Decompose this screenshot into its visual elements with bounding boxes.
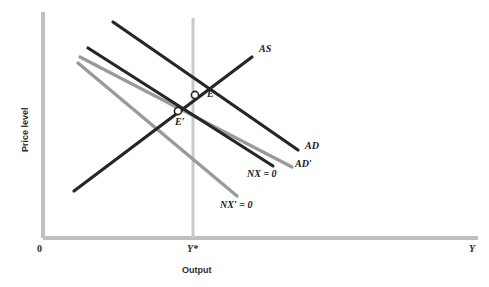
point-label-e: E — [207, 89, 214, 99]
curve-label-ad: AD — [305, 141, 319, 151]
curve-label-as: AS — [259, 44, 271, 54]
curve-label-nx-prime-zero: NX′ = 0 — [220, 200, 252, 210]
curve-as — [74, 57, 252, 191]
plot-canvas — [0, 0, 489, 287]
x-axis-end-label: Y — [469, 244, 475, 254]
y-axis-title: Price level — [21, 107, 30, 152]
origin-label: 0 — [37, 244, 42, 254]
x-tick-label-y-star: Y* — [187, 244, 198, 254]
equilibrium-point-e — [191, 91, 198, 98]
point-label-e-prime: E′ — [175, 117, 184, 127]
x-axis-title: Output — [182, 266, 212, 275]
ad-as-diagram-figure: AS AD NX = 0 AD′ NX′ = 0 E E′ 0 Y* Y Pri… — [0, 0, 489, 287]
equilibrium-point-e-prime — [174, 107, 181, 114]
curve-label-nx-zero: NX = 0 — [247, 169, 277, 179]
curve-ad — [113, 22, 298, 150]
curve-label-ad-prime: AD′ — [295, 159, 312, 169]
